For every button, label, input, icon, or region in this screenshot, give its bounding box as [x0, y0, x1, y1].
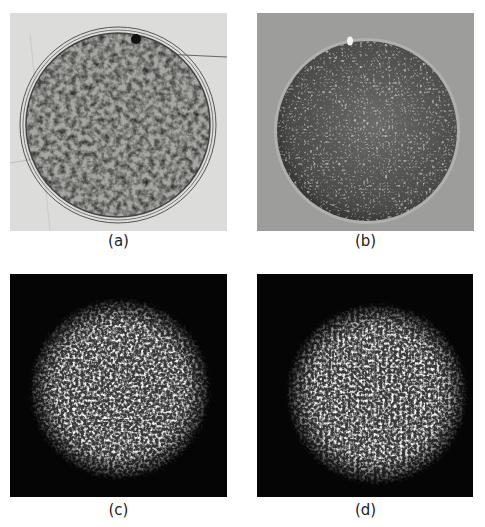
- panel-a-caption: (a): [10, 232, 227, 250]
- speckle-disk-image-d: [257, 274, 473, 497]
- droplet-micrograph-image: [10, 13, 227, 231]
- panel-b-caption: (b): [257, 232, 474, 250]
- figure-panel-b: [257, 13, 474, 231]
- speckle-disk-image-c: [10, 274, 227, 497]
- bumpy-sphere-image: [257, 13, 474, 231]
- figure-panel-a: [10, 13, 227, 231]
- panel-d-caption: (d): [257, 501, 474, 519]
- panel-c-caption: (c): [10, 501, 227, 519]
- figure-panel-c: [10, 274, 227, 497]
- figure-panel-d: [257, 274, 473, 497]
